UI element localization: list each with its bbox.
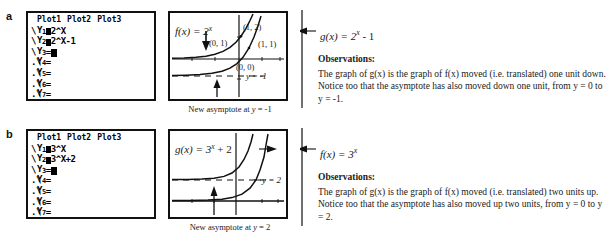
equals-sign: = bbox=[46, 186, 51, 197]
equals-sign: = bbox=[46, 197, 51, 208]
y2-expression: 3^X+2 bbox=[51, 154, 76, 165]
equals-sign: = bbox=[46, 57, 51, 68]
part-label-a: a bbox=[6, 10, 12, 22]
calc-row-y6: .\ Y6 = bbox=[31, 79, 152, 90]
y7-label: Y7 bbox=[37, 88, 46, 101]
g-tail: - 1 bbox=[360, 30, 375, 42]
calculator-screen-b: Plot1 Plot2 Plot3 \ Y1 3^X \ Y2 3^X+2 \ … bbox=[26, 129, 156, 219]
observations-heading-b: Observations: bbox=[318, 172, 375, 182]
caption-new-asymptote-a: New asymptote at y = -1 bbox=[160, 104, 300, 114]
calc-plot-row: Plot1 Plot2 Plot3 bbox=[31, 15, 152, 26]
equals-sign: = bbox=[46, 89, 51, 100]
graph-b-g-label: g(x) = 3x + 2 bbox=[175, 142, 232, 156]
y1-expression: 2^X bbox=[51, 26, 66, 37]
equals-highlight-icon bbox=[46, 28, 51, 35]
y2-expression: 2^X-1 bbox=[51, 36, 76, 47]
caption-suffix: = -1 bbox=[256, 104, 272, 114]
graph-panel-a: f(x) = 2x (0, 1) (1, 2) (1, 1) (0, 0) y … bbox=[168, 11, 288, 101]
graph-b-asymptote-label: y = 2 bbox=[261, 175, 282, 185]
figure-part-b: b Plot1 Plot2 Plot3 \ Y1 3^X \ Y2 3^X+2 bbox=[0, 118, 612, 236]
graph-a-point-0-1: (0, 1) bbox=[209, 38, 228, 48]
graph-panel-b: g(x) = 3x + 2 y = 2 bbox=[168, 129, 288, 219]
equals-sign: = bbox=[46, 79, 51, 90]
graph-a-f-label: f(x) = 2x bbox=[175, 24, 213, 38]
right-column-b: f(x) = 3x Observations: The graph of g(x… bbox=[300, 126, 606, 230]
calc-row-y3: \ Y3 = bbox=[31, 165, 152, 176]
calc-row-y6: .\ Y6 = bbox=[31, 197, 152, 208]
plot2-label: Plot2 bbox=[67, 15, 91, 26]
figure-part-a: a Plot1 Plot2 Plot3 \ Y1 2^X \ Y2 2^X-1 bbox=[0, 0, 612, 118]
calc-row-y3: \ Y3 = bbox=[31, 47, 152, 58]
plot3-label: Plot3 bbox=[97, 133, 121, 144]
calc-row-y7: .\ Y7 = bbox=[31, 89, 152, 100]
text-cursor-icon bbox=[51, 49, 57, 57]
equals-sign: = bbox=[46, 207, 51, 218]
plot3-label: Plot3 bbox=[97, 15, 121, 26]
y7-label: Y7 bbox=[37, 206, 46, 219]
equals-highlight-icon bbox=[46, 39, 51, 46]
plot2-label: Plot2 bbox=[67, 133, 91, 144]
observations-text-b: The graph of g(x) is the graph of f(x) m… bbox=[318, 186, 606, 223]
equals-sign: = bbox=[46, 68, 51, 79]
g-of-x-text: g(x) = 2 bbox=[320, 30, 356, 42]
equals-highlight-icon bbox=[46, 157, 51, 164]
calc-row-y1: \ Y1 3^X bbox=[31, 144, 152, 155]
calc-row-y7: .\ Y7 = bbox=[31, 207, 152, 218]
part-label-b: b bbox=[6, 128, 13, 140]
text-cursor-icon bbox=[51, 167, 57, 175]
graph-a-point-1-1: (1, 1) bbox=[258, 39, 277, 49]
function-label-g-a: g(x) = 2x - 1 bbox=[320, 28, 374, 42]
calc-plot-row: Plot1 Plot2 Plot3 bbox=[31, 133, 152, 144]
caption-prefix: New asymptote at bbox=[188, 104, 252, 114]
graph-a-asymptote-label: y = -1 bbox=[245, 71, 267, 81]
calculator-screen-a: Plot1 Plot2 Plot3 \ Y1 2^X \ Y2 2^X-1 \ … bbox=[26, 11, 156, 101]
calc-row-y2: \ Y2 3^X+2 bbox=[31, 154, 152, 165]
calc-row-y1: \ Y1 2^X bbox=[31, 26, 152, 37]
caption-suffix: = 2 bbox=[257, 222, 270, 232]
graph-a-point-1-2: (1, 2) bbox=[243, 22, 262, 32]
equals-sign: = bbox=[46, 175, 51, 186]
calc-row-y2: \ Y2 2^X-1 bbox=[31, 36, 152, 47]
function-label-f-b: f(x) = 3x bbox=[320, 146, 357, 160]
caption-new-asymptote-b: New asymptote at y = 2 bbox=[160, 222, 300, 232]
equals-highlight-icon bbox=[46, 146, 51, 153]
observations-heading-a: Observations: bbox=[318, 54, 375, 64]
y1-expression: 3^X bbox=[51, 144, 66, 155]
observations-text-a: The graph of g(x) is the graph of f(x) m… bbox=[318, 68, 606, 105]
f-exponent: x bbox=[354, 146, 358, 155]
calc-row-y5: .\ Y5 = bbox=[31, 68, 152, 79]
calc-row-y4: .\ Y4 = bbox=[31, 57, 152, 68]
right-column-a: g(x) = 2x - 1 Observations: The graph of… bbox=[300, 8, 606, 112]
calc-row-y4: .\ Y4 = bbox=[31, 175, 152, 186]
caption-prefix: New asymptote at bbox=[190, 222, 254, 232]
calc-row-y5: .\ Y5 = bbox=[31, 186, 152, 197]
f-of-x-text: f(x) = 3 bbox=[320, 148, 354, 160]
